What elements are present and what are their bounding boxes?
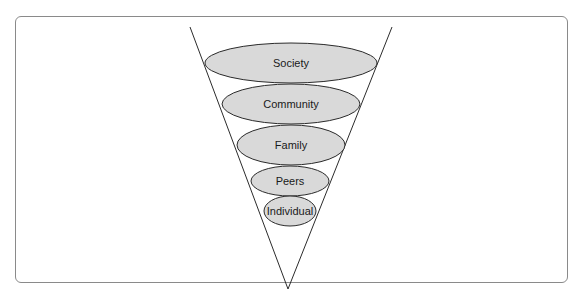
layer-label: Family [275, 139, 308, 151]
layer-label: Community [263, 98, 319, 110]
layer-individual: Individual [264, 196, 316, 226]
layer-society: Society [205, 43, 377, 83]
layer-community: Community [222, 84, 360, 124]
layer-family: Family [237, 125, 345, 165]
layer-label: Society [273, 57, 310, 69]
layer-label: Peers [276, 175, 305, 187]
layer-label: Individual [267, 205, 313, 217]
layer-peers: Peers [251, 166, 329, 196]
cone-diagram: Society Community Family Peers Individua… [0, 0, 584, 300]
